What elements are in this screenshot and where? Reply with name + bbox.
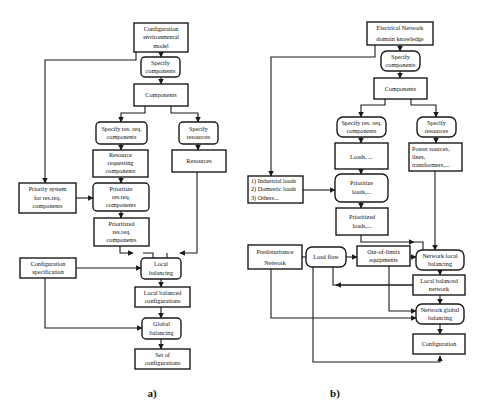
node-label: equipments: [369, 256, 398, 263]
node-label: loads,...: [352, 222, 372, 229]
node-out-of-limits-equipments: Out-of-limits equipments: [357, 246, 410, 266]
node-specify-res-req-components: Specify res. req. components: [337, 117, 386, 137]
node-label: Set of: [155, 351, 171, 358]
node-label: Specify: [151, 59, 171, 66]
node-label: Network local: [422, 252, 458, 259]
node-configuration: Configuration: [413, 334, 465, 354]
node-label: Components: [385, 85, 417, 92]
node-label: configurations: [145, 359, 181, 366]
node-label: requesting: [108, 159, 134, 166]
node-label: balancing: [428, 314, 452, 321]
caption-a: a): [147, 387, 157, 400]
node-label: components: [107, 133, 137, 140]
node-local-balanced-configurations: Local balanced configurations: [135, 287, 190, 307]
node-label: res.req.: [112, 228, 131, 235]
node-label: configurations: [145, 297, 181, 304]
node-label: domain knowledge: [376, 35, 424, 42]
node-label: resources: [187, 133, 211, 140]
node-label: Local balanced: [420, 277, 459, 284]
node-label: Load flow: [313, 253, 339, 260]
node-label: res.req.: [112, 193, 131, 200]
node-loads: Loads, ...: [335, 143, 388, 169]
node-label: Loads, ...: [350, 153, 373, 160]
node-label: balancing: [428, 260, 452, 267]
node-prioritized-res-req-components: Prioritized res.req. components: [94, 218, 149, 246]
node-label: Priority system: [29, 185, 67, 192]
node-label: Prioritize: [350, 179, 373, 186]
node-label: components: [347, 127, 377, 134]
node-label: Configuration: [31, 260, 66, 267]
node-specify-components: Specify components: [381, 51, 420, 71]
node-label: Specify: [189, 125, 209, 132]
node-set-of-configurations: Set of configurations: [135, 349, 190, 369]
node-predisturbance-network: Predisturbance Network: [248, 245, 302, 269]
node-specify-resources: Specify resources: [179, 122, 218, 144]
node-label: components: [106, 167, 136, 174]
node-label: Power sources,: [412, 145, 450, 152]
node-label: Local balanced: [144, 289, 183, 296]
node-label: 2) Domestic loads: [251, 185, 297, 193]
node-label: Network: [264, 259, 287, 266]
flowchart-canvas: Configuration environmental model Specif…: [0, 0, 483, 415]
caption-b: b): [330, 387, 340, 400]
node-configuration-specification: Configuration specification: [20, 258, 76, 278]
node-local-balancing: Local balancing: [141, 258, 181, 279]
node-resource-requesting-components: Resource requesting components: [93, 150, 148, 177]
node-load-flow: Load flow: [306, 247, 346, 267]
node-specify-resources: Specify resources: [417, 117, 456, 137]
node-label: Resources: [186, 157, 212, 164]
diagram-a: Configuration environmental model Specif…: [19, 23, 226, 400]
node-label: Prioritized: [349, 213, 376, 220]
node-prioritized-loads: Prioritized loads,...: [336, 208, 388, 235]
node-label: Specify res. req.: [101, 125, 142, 132]
node-label: network: [429, 285, 450, 292]
node-label: resources: [425, 127, 449, 134]
diagram-b: Electrical Network domain knowledge Spec…: [248, 22, 465, 400]
node-label: balancing: [149, 329, 173, 336]
node-label: Configuration: [144, 25, 179, 32]
node-power-sources: Power sources, lines, transformers,...: [409, 143, 462, 171]
node-label: 3) Others...: [251, 194, 279, 202]
node-configuration-environmental-model: Configuration environmental model: [134, 23, 188, 52]
node-electrical-network-domain-knowledge: Electrical Network domain knowledge: [367, 22, 433, 45]
node-label: specification: [32, 268, 64, 275]
node-label: 1) Industrial loads: [251, 177, 297, 185]
node-label: loads,...: [352, 188, 372, 195]
node-label: Prioritize: [109, 185, 132, 192]
node-components: Components: [134, 84, 188, 106]
node-label: Specify res. req.: [341, 119, 382, 126]
node-label: environmental: [143, 33, 179, 40]
node-label: lines,: [412, 153, 426, 160]
node-label: transformers,...: [412, 161, 450, 168]
node-load-types: 1) Industrial loads 2) Domestic loads 3)…: [248, 176, 303, 203]
node-label: Global: [153, 320, 170, 327]
node-label: Resource: [109, 151, 132, 158]
node-label: Out-of-limits: [367, 248, 400, 255]
node-global-balancing: Global balancing: [142, 318, 181, 339]
node-label: components: [386, 61, 416, 68]
node-local-balanced-network: Local balanced network: [413, 275, 465, 295]
node-network-global-balancing: Network global balancing: [416, 304, 464, 324]
node-label: Electrical Network: [377, 24, 425, 31]
node-prioritize-loads: Prioritize loads,...: [335, 174, 388, 202]
node-label: components: [106, 201, 136, 208]
node-label: Predisturbance: [257, 248, 294, 255]
node-label: Network global: [421, 306, 460, 313]
node-components: Components: [374, 78, 427, 99]
node-label: components: [33, 202, 63, 209]
node-label: model: [153, 42, 169, 49]
node-label: Specify: [391, 53, 411, 60]
node-resources: Resources: [172, 150, 226, 172]
node-prioritize-res-req-components: Prioritize res.req. components: [93, 183, 149, 211]
node-label: Prioritized: [108, 220, 135, 227]
node-label: components: [146, 67, 176, 74]
node-label: Local: [154, 260, 168, 267]
node-specify-res-req-components: Specify res. req. components: [96, 122, 147, 144]
node-label: Components: [145, 91, 177, 98]
node-label: Specify: [427, 119, 447, 126]
node-label: Configuration: [422, 340, 457, 347]
node-label: for res.req.: [34, 194, 61, 201]
node-priority-system: Priority system for res.req. components: [19, 183, 76, 213]
node-specify-components: Specify components: [141, 57, 180, 77]
node-label: balancing: [149, 269, 173, 276]
